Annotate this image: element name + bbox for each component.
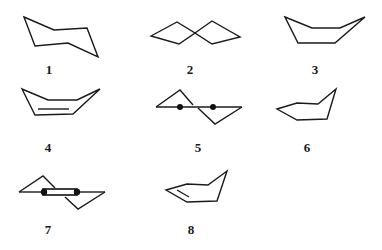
structure-label-3: 3	[312, 62, 319, 77]
structure-label-6: 6	[304, 140, 311, 155]
boat-ring	[285, 17, 365, 43]
structure-7: 7	[19, 176, 105, 237]
right-ring	[195, 21, 240, 44]
double-bond-line	[177, 190, 189, 197]
bridgehead-dot	[74, 189, 80, 195]
envelope-ring	[166, 171, 227, 202]
bridgehead-dot	[210, 104, 216, 110]
structure-6: 6	[277, 89, 336, 155]
chair-ring	[24, 17, 98, 57]
structure-5: 5	[156, 90, 242, 155]
structure-2: 2	[151, 21, 240, 77]
boat-ring	[22, 89, 100, 115]
structure-label-4: 4	[45, 140, 52, 155]
left-ring	[151, 22, 195, 44]
structure-4: 4	[22, 89, 100, 155]
structure-label-7: 7	[45, 222, 52, 237]
envelope-ring	[277, 89, 336, 120]
structure-3: 3	[285, 17, 365, 77]
structure-label-5: 5	[195, 140, 202, 155]
structure-label-1: 1	[46, 62, 53, 77]
bridge-bar	[43, 189, 77, 195]
structure-8: 8	[166, 171, 227, 237]
structures-figure: 1 2 3 4 5 6 7	[0, 0, 382, 250]
lower-ring	[198, 107, 242, 124]
upper-ring	[156, 90, 193, 107]
structure-1: 1	[24, 17, 98, 77]
structure-label-8: 8	[188, 222, 195, 237]
bridgehead-dot	[41, 189, 47, 195]
bridgehead-dot	[177, 104, 183, 110]
structure-label-2: 2	[187, 62, 194, 77]
